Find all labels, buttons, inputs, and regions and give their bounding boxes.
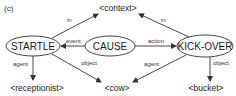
edge-startle-in-context: in [52, 14, 98, 38]
node-cause-label: CAUSE [93, 41, 128, 52]
edge-label-agent-right: agent [144, 61, 159, 67]
edge-label-agent-left: agent [13, 61, 28, 67]
terminal-cow: <cow> [104, 83, 129, 93]
edge-label-in-right: in [161, 17, 166, 23]
node-cause: CAUSE [85, 36, 135, 56]
node-startle: STARTLE [6, 36, 60, 56]
edge-label-object-right: object [213, 60, 229, 66]
node-startle-label: STARTLE [11, 41, 55, 52]
terminal-context: <context> [99, 3, 136, 13]
edge-startle-agent-receptionist: agent [13, 56, 33, 80]
edge-label-in-left: in [67, 17, 72, 23]
terminal-receptionist: <receptionist> [10, 83, 63, 93]
semantic-network-diagram: (c) in in event action agent object agen… [0, 0, 236, 96]
node-kickover-label: KICK-OVER [177, 41, 232, 52]
terminal-bucket: <bucket> [189, 83, 224, 93]
panel-label: (c) [4, 4, 14, 13]
edge-cause-action-kickover: action [135, 38, 176, 46]
edge-label-action: action [148, 38, 164, 44]
edge-cause-event-startle: event [61, 38, 85, 46]
edge-label-object-left: object [81, 60, 97, 66]
edge-label-event: event [66, 38, 81, 44]
edge-kickover-object-bucket: object [210, 57, 229, 81]
edge-startle-object-cow: object [52, 54, 101, 82]
edge-kickover-in-context: in [139, 14, 189, 37]
node-kickover: KICK-OVER [177, 35, 233, 57]
edge-kickover-agent-cow: agent [133, 55, 186, 82]
